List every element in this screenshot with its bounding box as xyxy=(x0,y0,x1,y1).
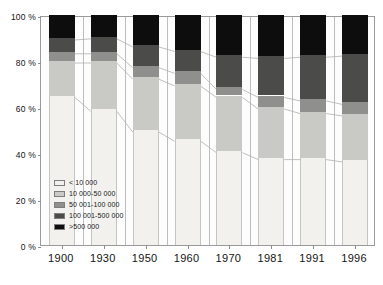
legend-item-label: < 10 000 xyxy=(69,179,97,186)
legend-swatch-icon xyxy=(54,202,65,208)
x-axis-tick-label-1950: 1950 xyxy=(132,252,158,264)
legend-item: < 10 000 xyxy=(54,178,123,188)
x-axis-tick-label-1930: 1930 xyxy=(90,252,116,264)
legend-swatch-icon xyxy=(54,213,65,219)
bar-segment xyxy=(216,55,242,87)
legend-item: 100 001-500 000 xyxy=(54,211,123,221)
bar-segment xyxy=(133,15,159,45)
y-axis-tick-label: 20 % xyxy=(16,196,36,206)
bar-segment xyxy=(300,55,326,99)
x-axis-tick-label-1960: 1960 xyxy=(174,252,200,264)
x-axis-tick-mark xyxy=(104,245,105,249)
bar-segment xyxy=(258,158,284,245)
y-axis-tick-mark xyxy=(38,201,41,202)
legend-item: >500 000 xyxy=(54,222,123,232)
bar-segment xyxy=(175,139,201,245)
bar-segment xyxy=(216,151,242,245)
y-axis-tick-mark xyxy=(38,247,41,248)
x-axis-tick-mark xyxy=(271,245,272,249)
y-axis-tick-mark xyxy=(38,17,41,18)
y-axis-tick-mark xyxy=(38,63,41,64)
x-axis-tick-mark xyxy=(355,245,356,249)
y-axis-tick-mark xyxy=(38,155,41,156)
bar-segment xyxy=(91,15,117,37)
bar-segment xyxy=(300,99,326,112)
x-axis-tick-label-1996: 1996 xyxy=(341,252,367,264)
chart-legend: < 10 00010 000-50 00050 001-100 000100 0… xyxy=(54,178,123,233)
bar-segment xyxy=(216,87,242,95)
bar-segment xyxy=(49,38,75,52)
bar-segment xyxy=(91,52,117,61)
y-axis-tick-mark xyxy=(38,109,41,110)
bar-1970 xyxy=(216,15,242,245)
bar-segment xyxy=(300,158,326,245)
bar-1960 xyxy=(175,15,201,245)
bar-segment xyxy=(49,15,75,38)
bar-segment xyxy=(91,37,117,52)
bar-segment xyxy=(342,160,368,245)
stacked-bar-chart: 0 %20 %40 %60 %80 %100 % 190019301950196… xyxy=(0,0,383,285)
legend-swatch-icon xyxy=(54,224,65,230)
bar-segment xyxy=(133,66,159,78)
bar-segment xyxy=(175,84,201,139)
column-separator xyxy=(125,17,126,245)
bar-segment xyxy=(133,45,159,66)
y-axis-tick-label: 40 % xyxy=(16,150,36,160)
bar-segment xyxy=(49,52,75,61)
legend-item-label: 100 001-500 000 xyxy=(69,212,123,219)
column-separator xyxy=(209,17,210,245)
x-axis-tick-label-1981: 1981 xyxy=(257,252,283,264)
legend-item-label: >500 000 xyxy=(69,223,99,230)
column-separator xyxy=(250,17,251,245)
bar-1991 xyxy=(300,15,326,245)
x-axis-tick-label-1900: 1900 xyxy=(48,252,74,264)
x-axis-tick-label-1970: 1970 xyxy=(216,252,242,264)
bar-segment xyxy=(258,96,284,108)
legend-swatch-icon xyxy=(54,191,65,197)
column-separator xyxy=(292,17,293,245)
legend-item: 50 001-100 000 xyxy=(54,200,123,210)
legend-swatch-icon xyxy=(54,180,65,186)
bar-segment xyxy=(258,15,284,56)
bar-1981 xyxy=(258,15,284,245)
column-separator xyxy=(167,17,168,245)
x-axis-tick-mark xyxy=(62,245,63,249)
bar-segment xyxy=(216,96,242,151)
legend-item-label: 50 001-100 000 xyxy=(69,201,119,208)
bar-1996 xyxy=(342,15,368,245)
y-axis-tick-label: 0 % xyxy=(21,242,36,252)
y-axis-tick-label: 100 % xyxy=(11,12,36,22)
x-axis-tick-mark xyxy=(188,245,189,249)
bar-segment xyxy=(258,56,284,95)
y-axis-tick-label: 60 % xyxy=(16,104,36,114)
legend-item-label: 10 000-50 000 xyxy=(69,190,115,197)
bar-segment xyxy=(342,102,368,114)
bar-segment xyxy=(175,15,201,50)
bar-segment xyxy=(342,54,368,102)
bar-segment xyxy=(133,77,159,130)
bar-segment xyxy=(300,112,326,158)
bar-segment xyxy=(342,114,368,160)
x-axis-tick-label-1991: 1991 xyxy=(299,252,325,264)
bar-segment xyxy=(91,61,117,109)
x-axis-tick-mark xyxy=(313,245,314,249)
bar-segment xyxy=(342,15,368,54)
legend-item: 10 000-50 000 xyxy=(54,189,123,199)
bar-1950 xyxy=(133,15,159,245)
y-axis-tick-label: 80 % xyxy=(16,58,36,68)
x-axis-tick-mark xyxy=(146,245,147,249)
bar-segment xyxy=(133,130,159,245)
bar-segment xyxy=(216,15,242,55)
bar-segment xyxy=(300,15,326,55)
bar-segment xyxy=(258,107,284,158)
x-axis-tick-mark xyxy=(229,245,230,249)
bar-segment xyxy=(175,71,201,84)
column-separator xyxy=(334,17,335,245)
bar-segment xyxy=(49,61,75,96)
bar-segment xyxy=(175,50,201,72)
